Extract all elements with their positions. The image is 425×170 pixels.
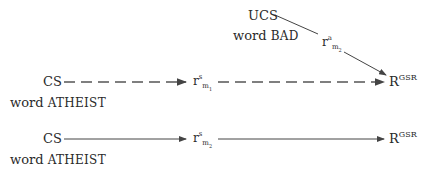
word-prefix: word	[10, 152, 44, 167]
mediator-subsub: 1	[209, 86, 212, 92]
response-sup: GSR	[399, 73, 417, 82]
ucs-text: UCS	[248, 8, 278, 23]
word-bad-label: word BAD	[233, 29, 299, 42]
response-base: R	[389, 74, 399, 89]
cs-text: CS	[43, 131, 62, 146]
mediator-sub: m	[202, 82, 209, 90]
cs-label-row1: CS	[43, 75, 62, 88]
word-atheist-label-row1: word ATHEIST	[10, 96, 106, 109]
response-sup: GSR	[399, 130, 417, 139]
mediator-sup: a	[328, 34, 332, 42]
response-gsr-row1: RGSR	[389, 75, 417, 88]
cs-text: CS	[43, 74, 62, 89]
arrows-layer	[0, 0, 425, 170]
cs-label-row2: CS	[43, 132, 62, 145]
ucs-label: UCS	[248, 9, 278, 22]
mediator-sub: m	[332, 43, 339, 51]
word-atheist-label-row2: word ATHEIST	[10, 153, 106, 166]
mediator-rs-m1: rsm1	[193, 75, 212, 87]
mediator-subsub: 2	[339, 47, 342, 53]
mediator-sup: s	[199, 73, 203, 81]
response-gsr-row2: RGSR	[389, 132, 417, 145]
mediator-subsub: 2	[209, 143, 212, 149]
mediator-ra-m2: ram2	[322, 36, 342, 48]
response-base: R	[389, 131, 399, 146]
arrow-ra-to-r	[344, 52, 386, 75]
mediator-sup: s	[199, 130, 203, 138]
word-prefix: word	[10, 95, 44, 110]
word-value: ATHEIST	[48, 96, 106, 110]
mediator-base: r	[193, 74, 199, 88]
word-value: ATHEIST	[48, 153, 106, 167]
mediator-base: r	[322, 35, 328, 49]
mediator-sub: m	[202, 139, 209, 147]
mediator-base: r	[193, 131, 199, 145]
mediator-rs-m2: rsm2	[193, 132, 212, 144]
word-prefix: word	[233, 28, 267, 43]
word-value: BAD	[271, 29, 299, 43]
